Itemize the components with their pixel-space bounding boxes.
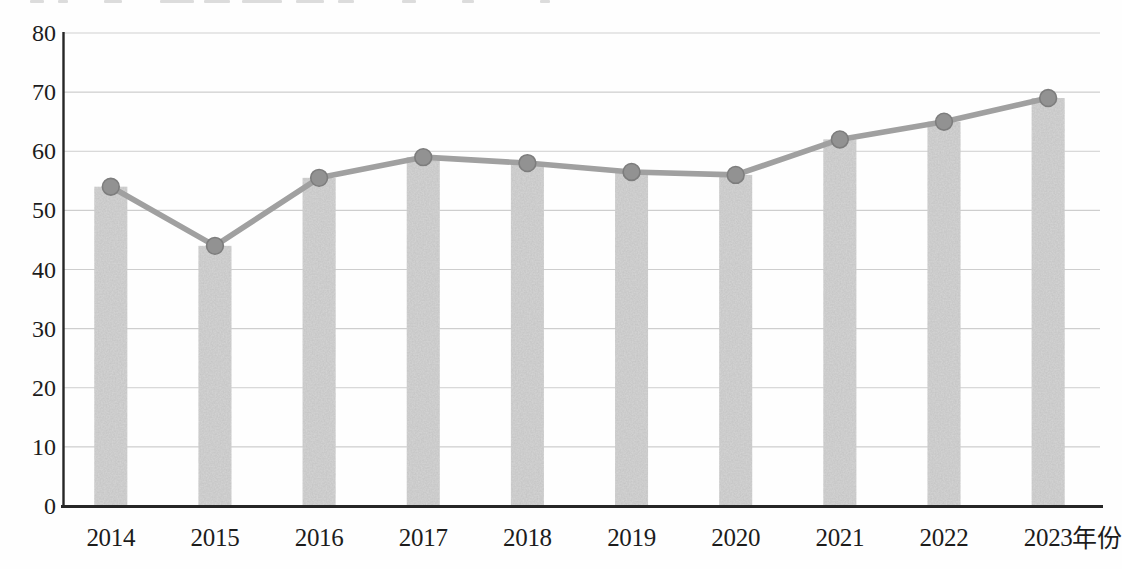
y-tick-label: 40 — [32, 257, 56, 283]
x-tick-label: 2023 — [1024, 524, 1073, 551]
marker-2023 — [1040, 90, 1057, 107]
x-tick-label: 2019 — [607, 524, 656, 551]
x-tick-label: 2016 — [295, 524, 344, 551]
bar-2022 — [928, 122, 961, 506]
bar-2014 — [94, 187, 127, 506]
cropped-text-remnant — [0, 0, 620, 7]
combo-chart-canvas: 0102030405060708020142015201620172018201… — [0, 0, 1122, 569]
y-tick-label: 80 — [32, 20, 56, 46]
bar-2015 — [198, 246, 231, 506]
marker-2014 — [102, 178, 119, 195]
x-tick-label: 2017 — [399, 524, 448, 551]
scanned-chart-page: 0102030405060708020142015201620172018201… — [0, 0, 1122, 569]
bar-2018 — [511, 163, 544, 506]
bar-series — [94, 98, 1064, 506]
marker-2021 — [831, 131, 848, 148]
marker-2019 — [623, 164, 640, 181]
x-tick-label: 2022 — [920, 524, 969, 551]
y-tick-label: 10 — [32, 434, 56, 460]
marker-2020 — [727, 167, 744, 184]
y-tick-label: 30 — [32, 316, 56, 342]
y-tick-label: 50 — [32, 197, 56, 223]
x-tick-label: 2021 — [815, 524, 864, 551]
bar-2019 — [615, 172, 648, 506]
marker-2017 — [415, 149, 432, 166]
bar-2016 — [303, 178, 336, 506]
x-tick-label: 2018 — [503, 524, 552, 551]
marker-2015 — [207, 237, 224, 254]
x-tick-label: 2020 — [711, 524, 760, 551]
marker-2022 — [936, 113, 953, 130]
y-tick-label: 60 — [32, 138, 56, 164]
bar-2017 — [407, 157, 440, 506]
x-tick-label: 2015 — [191, 524, 240, 551]
bar-2023 — [1032, 98, 1065, 506]
y-tick-label: 70 — [32, 79, 56, 105]
y-tick-label: 0 — [44, 493, 56, 519]
y-tick-label: 20 — [32, 375, 56, 401]
x-axis-unit-label: 年份 — [1072, 525, 1122, 552]
trend-line — [111, 98, 1048, 246]
bar-2020 — [719, 175, 752, 506]
x-tick-label: 2014 — [86, 524, 136, 551]
marker-2018 — [519, 155, 536, 172]
bar-2021 — [823, 139, 856, 506]
marker-2016 — [311, 169, 328, 186]
